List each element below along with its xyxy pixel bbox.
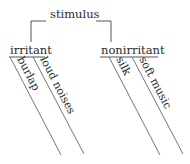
root-label: stimulus bbox=[50, 7, 100, 21]
modifier-label-silk: silk bbox=[113, 54, 134, 77]
right-connector bbox=[96, 21, 111, 42]
modifier-label-soft-music: soft music bbox=[136, 54, 174, 111]
diagram: stimulus irritant nonirritant burlap lou… bbox=[0, 0, 190, 164]
left-connector bbox=[31, 21, 46, 42]
branch-label-nonirritant: nonirritant bbox=[101, 43, 165, 57]
modifier-label-loud-noises: loud noises bbox=[37, 54, 78, 116]
